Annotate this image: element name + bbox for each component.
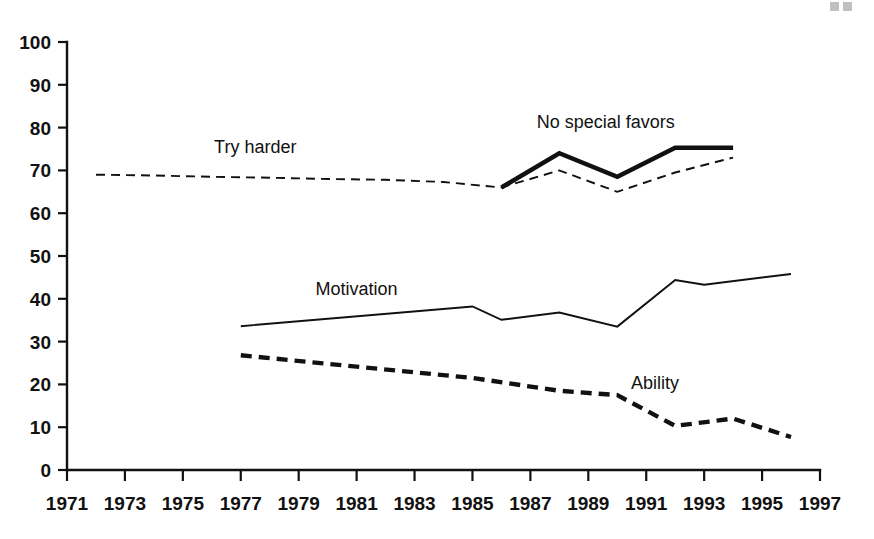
y-tick-label: 70 (30, 160, 51, 181)
x-tick-label: 1985 (451, 493, 494, 514)
x-tick-label: 1995 (741, 493, 784, 514)
y-tick-label: 60 (30, 203, 51, 224)
x-tick-label: 1973 (104, 493, 146, 514)
x-tick-label: 1971 (46, 493, 89, 514)
x-tick-label: 1983 (393, 493, 435, 514)
x-tick-label: 1993 (683, 493, 725, 514)
page-edge-artifact (830, 2, 856, 11)
series-line-try-harder (96, 158, 733, 192)
y-tick-label: 100 (19, 32, 51, 53)
y-tick-label: 0 (40, 460, 51, 481)
chart-canvas: 0102030405060708090100 19711973197519771… (0, 0, 874, 539)
series-line-ability (241, 355, 791, 437)
x-tick-label: 1997 (799, 493, 841, 514)
y-tick-label: 50 (30, 246, 51, 267)
line-chart-figure: 0102030405060708090100 19711973197519771… (0, 0, 874, 539)
y-tick-label: 20 (30, 374, 51, 395)
series-label-motivation: Motivation (316, 279, 398, 299)
y-tick-label: 10 (30, 417, 51, 438)
series-label-no-special-favors: No special favors (537, 112, 675, 132)
y-tick-label: 90 (30, 75, 51, 96)
x-tick-label: 1981 (335, 493, 378, 514)
y-tick-label: 40 (30, 289, 51, 310)
series-label-ability: Ability (631, 373, 679, 393)
x-tick-label: 1991 (625, 493, 668, 514)
y-tick-label: 30 (30, 332, 51, 353)
x-tick-label: 1987 (509, 493, 551, 514)
x-axis: 1971197319751977197919811983198519871989… (46, 470, 841, 514)
data-series-group (96, 148, 791, 437)
series-line-no-special-favors (501, 148, 733, 188)
y-tick-label: 80 (30, 118, 51, 139)
series-label-group: Try harderNo special favorsMotivationAbi… (214, 112, 679, 393)
series-label-try-harder: Try harder (214, 137, 296, 157)
x-tick-label: 1975 (162, 493, 205, 514)
x-tick-label: 1979 (278, 493, 320, 514)
x-tick-label: 1977 (220, 493, 262, 514)
x-tick-label: 1989 (567, 493, 609, 514)
y-axis: 0102030405060708090100 (19, 32, 67, 481)
